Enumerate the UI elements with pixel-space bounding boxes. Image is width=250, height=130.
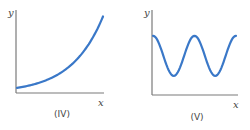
panel-label-v: (V) bbox=[190, 112, 203, 122]
panel-label-iv: (IV) bbox=[54, 109, 70, 119]
panel-v: y x (V) bbox=[143, 7, 239, 122]
x-axis-label-iv: x bbox=[98, 97, 104, 108]
x-axis-label-v: x bbox=[233, 99, 239, 110]
exponential-curve bbox=[17, 17, 103, 88]
y-axis-label-iv: y bbox=[7, 7, 14, 18]
chart-figure: y x (IV) y x (V) bbox=[0, 0, 250, 130]
panel-iv: y x (IV) bbox=[7, 7, 104, 119]
periodic-wave-curve bbox=[153, 36, 236, 76]
y-axis-label-v: y bbox=[143, 7, 150, 18]
